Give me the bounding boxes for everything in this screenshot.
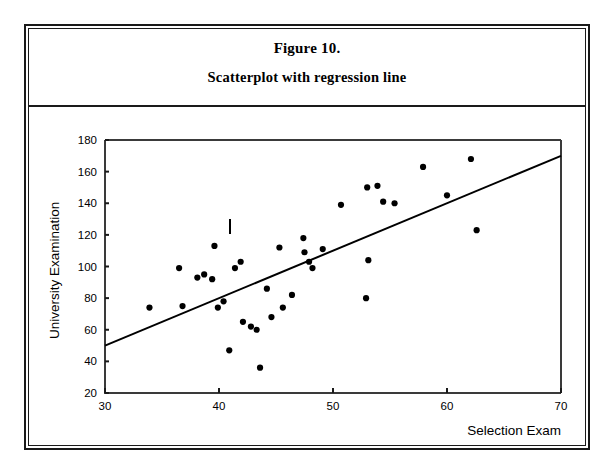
data-point: [211, 243, 217, 249]
y-tick-label: 100: [78, 261, 97, 273]
data-point: [301, 249, 307, 255]
x-tick-label: 60: [441, 400, 454, 412]
data-point: [215, 305, 221, 311]
axis-frame: [105, 140, 561, 393]
data-point: [474, 227, 480, 233]
data-point: [320, 246, 326, 252]
x-axis-ticks: 3040506070: [99, 388, 568, 412]
y-tick-label: 180: [78, 134, 97, 146]
y-axis-title: University Examination: [47, 202, 62, 339]
figure-number-label: Figure 10.: [29, 40, 585, 57]
data-point: [209, 276, 215, 282]
data-point: [289, 292, 295, 298]
data-point: [220, 298, 226, 304]
figure-caption-box: Figure 10. Scatterplot with regression l…: [29, 29, 585, 107]
data-point: [226, 347, 232, 353]
data-point: [240, 319, 246, 325]
x-tick-label: 30: [99, 400, 112, 412]
data-point: [365, 257, 371, 263]
data-point: [264, 286, 270, 292]
x-axis-title: Selection Exam: [467, 423, 561, 438]
data-point: [363, 295, 369, 301]
data-point: [338, 202, 344, 208]
data-point: [306, 259, 312, 265]
y-tick-label: 80: [84, 292, 97, 304]
data-point: [201, 271, 207, 277]
data-point: [391, 200, 397, 206]
data-point: [146, 305, 152, 311]
y-tick-label: 160: [78, 166, 97, 178]
data-point: [444, 192, 450, 198]
data-point: [268, 314, 274, 320]
data-point: [194, 274, 200, 280]
data-point: [380, 199, 386, 205]
figure-outer-frame: Figure 10. Scatterplot with regression l…: [24, 24, 590, 450]
y-tick-label: 120: [78, 229, 97, 241]
data-point: [468, 156, 474, 162]
scatter-points-group: [146, 156, 479, 371]
data-point: [374, 183, 380, 189]
data-point: [420, 164, 426, 170]
y-tick-label: 60: [84, 324, 97, 336]
data-point: [248, 323, 254, 329]
x-tick-label: 40: [213, 400, 226, 412]
scatterplot-region: 20406080100120140160180 3040506070 Unive…: [29, 107, 585, 445]
y-tick-label: 20: [84, 387, 97, 399]
regression-line: [105, 156, 561, 346]
data-point: [309, 265, 315, 271]
data-point: [280, 305, 286, 311]
data-point: [176, 265, 182, 271]
scatterplot-svg: 20406080100120140160180 3040506070 Unive…: [29, 107, 589, 451]
x-tick-label: 50: [327, 400, 340, 412]
y-tick-label: 140: [78, 197, 97, 209]
data-point: [300, 235, 306, 241]
data-point: [364, 184, 370, 190]
data-point: [276, 244, 282, 250]
data-point: [254, 327, 260, 333]
figure-title-label: Scatterplot with regression line: [29, 69, 585, 86]
data-point: [179, 303, 185, 309]
data-point: [232, 265, 238, 271]
figure-inner-frame: Figure 10. Scatterplot with regression l…: [28, 28, 586, 446]
data-point: [238, 259, 244, 265]
data-point: [257, 365, 263, 371]
x-tick-label: 70: [555, 400, 568, 412]
y-tick-label: 40: [84, 355, 97, 367]
